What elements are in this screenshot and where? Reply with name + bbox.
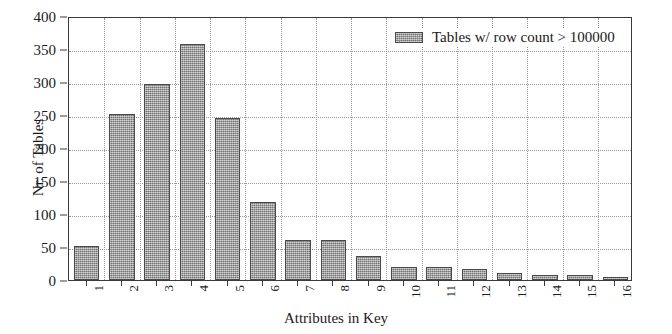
x-axis-tick-label: 10 <box>409 285 422 298</box>
bar <box>356 256 381 280</box>
x-axis-tick-mark <box>368 281 369 286</box>
bar-series <box>69 18 631 280</box>
bar-chart-figure: Nr. of Tables 050100150200250300350400 T… <box>0 0 672 334</box>
x-axis-tick-mark <box>438 281 439 286</box>
y-axis-tick-mark <box>60 149 67 150</box>
x-axis-tick-label: 8 <box>338 285 351 292</box>
x-axis-tick-mark <box>262 281 263 286</box>
x-axis-tick-mark <box>121 281 122 286</box>
x-axis-tick-label: 1 <box>92 285 105 292</box>
bar <box>144 84 169 280</box>
y-axis-tick-label: 50 <box>41 241 56 256</box>
y-axis-tick-mark <box>60 50 67 51</box>
y-axis-tick-mark <box>60 182 67 183</box>
x-axis-tick-label: 4 <box>197 285 210 292</box>
x-axis-tick-label: 15 <box>585 285 598 298</box>
legend-swatch-icon <box>395 32 423 43</box>
bar <box>250 202 275 280</box>
x-axis-tick-mark <box>191 281 192 286</box>
x-axis-tick-mark <box>156 281 157 286</box>
y-axis-tick-label: 0 <box>49 274 57 289</box>
bar <box>567 275 592 280</box>
y-axis-tick-label: 200 <box>34 142 57 157</box>
bar <box>109 114 134 280</box>
x-axis-tick-label: 7 <box>303 285 316 292</box>
bar <box>462 269 487 280</box>
bar <box>215 118 240 280</box>
y-axis-tick-mark <box>60 17 67 18</box>
y-axis-tick-mark <box>60 281 67 282</box>
x-axis-tick-label: 2 <box>127 285 140 292</box>
x-axis-tick-label: 3 <box>162 285 175 292</box>
x-axis-tick-label: 9 <box>374 285 387 292</box>
y-axis-tick-label: 250 <box>34 109 57 124</box>
x-axis-tick-mark <box>614 281 615 286</box>
x-axis-tick-label: 11 <box>444 285 457 298</box>
y-axis-tick-mark <box>60 248 67 249</box>
x-axis-tick-label: 12 <box>479 285 492 298</box>
bar <box>321 240 346 280</box>
x-axis-tick-mark <box>509 281 510 286</box>
plot-area: Tables w/ row count > 100000 <box>68 17 632 281</box>
x-axis-tick-label: 16 <box>620 285 633 298</box>
x-axis-tick-mark <box>403 281 404 286</box>
bar <box>532 275 557 280</box>
bar <box>391 267 416 280</box>
y-axis-tick-mark <box>60 215 67 216</box>
x-axis-tick-label: 14 <box>550 285 563 298</box>
y-axis-tick-label: 400 <box>34 10 57 25</box>
y-axis-tick-labels: 050100150200250300350400 <box>0 17 64 281</box>
y-axis-tick-label: 350 <box>34 43 57 58</box>
bar <box>603 277 628 280</box>
x-axis-tick-label: 5 <box>233 285 246 292</box>
x-axis-tick-mark <box>544 281 545 286</box>
x-axis-tick-label: 6 <box>268 285 281 292</box>
bar <box>285 240 310 280</box>
bar <box>497 273 522 280</box>
x-axis-title: Attributes in Key <box>0 310 672 327</box>
x-axis-tick-mark <box>579 281 580 286</box>
x-axis-tick-mark <box>297 281 298 286</box>
bar <box>74 246 99 280</box>
y-axis-tick-mark <box>60 83 67 84</box>
x-axis-tick-mark <box>86 281 87 286</box>
y-axis-tick-mark <box>60 116 67 117</box>
y-axis-tick-label: 300 <box>34 76 57 91</box>
legend-label: Tables w/ row count > 100000 <box>432 30 615 45</box>
x-axis-tick-mark <box>332 281 333 286</box>
legend: Tables w/ row count > 100000 <box>391 28 621 47</box>
bar <box>180 44 205 280</box>
y-axis-tick-label: 150 <box>34 175 57 190</box>
x-axis-tick-mark <box>227 281 228 286</box>
bar <box>426 267 451 280</box>
y-axis-tick-label: 100 <box>34 208 57 223</box>
x-axis-tick-mark <box>473 281 474 286</box>
x-axis-tick-label: 13 <box>515 285 528 298</box>
